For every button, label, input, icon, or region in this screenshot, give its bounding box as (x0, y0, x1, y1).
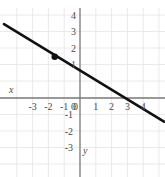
x-tick-label: -3 (26, 102, 40, 112)
x-tick-label: 2 (105, 102, 119, 112)
plotted-point (52, 54, 58, 60)
y-tick-label: 3 (62, 27, 76, 37)
graph-screenshot: -3 -2 -1 0 1 2 3 4 4 3 2 1 0 -1 -2 -3 x … (0, 0, 165, 177)
y-tick-label: -1 (59, 110, 73, 120)
x-tick-label: 1 (89, 102, 103, 112)
x-tick-label: -2 (41, 102, 55, 112)
y-tick-label: 1 (62, 60, 76, 70)
y-axis-label: y (83, 146, 87, 156)
grid-vertical (17, 8, 159, 177)
x-tick-label: 4 (136, 102, 150, 112)
y-tick-label: 4 (62, 11, 76, 21)
x-tick-label: 3 (120, 102, 134, 112)
x-axis-label: x (9, 85, 13, 95)
y-tick-label: -2 (59, 127, 73, 137)
y-tick-label: 2 (62, 44, 76, 54)
y-tick-label: -3 (59, 143, 73, 153)
